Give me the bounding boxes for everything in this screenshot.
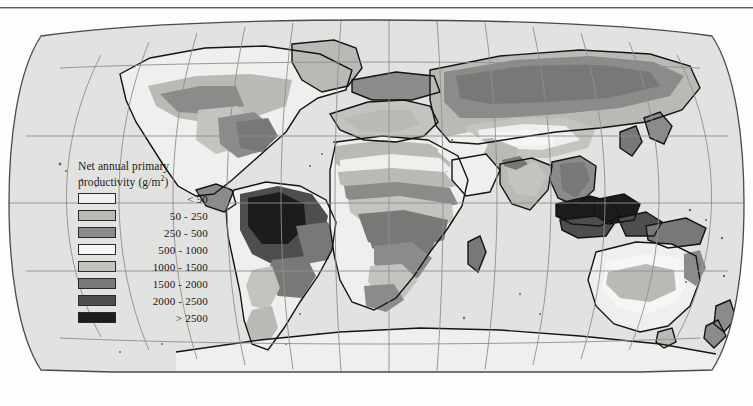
top-divider-rule xyxy=(0,7,753,9)
legend-label: 2000 - 2500 xyxy=(116,295,210,307)
legend-item[interactable]: > 2500 xyxy=(78,309,210,326)
legend-units-prefix: productivity (g/m xyxy=(78,175,161,187)
legend-units-suffix: ) xyxy=(164,175,168,187)
legend-label: 1500 - 2000 xyxy=(116,278,210,290)
legend-label: > 2500 xyxy=(116,312,210,324)
legend-label: 500 - 1000 xyxy=(116,244,210,256)
legend-title-line1: Net annual primary xyxy=(78,160,210,173)
map-page: Net annual primary productivity (g/m2) <… xyxy=(0,0,753,406)
legend-swatch xyxy=(78,295,116,306)
legend-swatch xyxy=(78,193,116,204)
legend-label: < 50 xyxy=(116,193,210,205)
legend-item[interactable]: < 50 xyxy=(78,190,210,207)
legend-item[interactable]: 500 - 1000 xyxy=(78,241,210,258)
legend-item[interactable]: 50 - 250 xyxy=(78,207,210,224)
legend-title-line2: productivity (g/m2) xyxy=(78,173,210,188)
legend-item[interactable]: 2000 - 2500 xyxy=(78,292,210,309)
legend-label: 250 - 500 xyxy=(116,227,210,239)
legend-swatch xyxy=(78,227,116,238)
legend-swatch xyxy=(78,312,116,323)
legend-swatch xyxy=(78,278,116,289)
map-legend: Net annual primary productivity (g/m2) <… xyxy=(78,160,210,326)
legend-label: 1000 - 1500 xyxy=(116,261,210,273)
legend-label: 50 - 250 xyxy=(116,210,210,222)
legend-item[interactable]: 250 - 500 xyxy=(78,224,210,241)
legend-item[interactable]: 1000 - 1500 xyxy=(78,258,210,275)
legend-rows: < 50 50 - 250 250 - 500 500 - 1000 1000 … xyxy=(78,190,210,326)
legend-swatch xyxy=(78,210,116,221)
legend-title: Net annual primary productivity (g/m2) xyxy=(78,160,210,188)
legend-swatch xyxy=(78,261,116,272)
legend-swatch xyxy=(78,244,116,255)
legend-item[interactable]: 1500 - 2000 xyxy=(78,275,210,292)
